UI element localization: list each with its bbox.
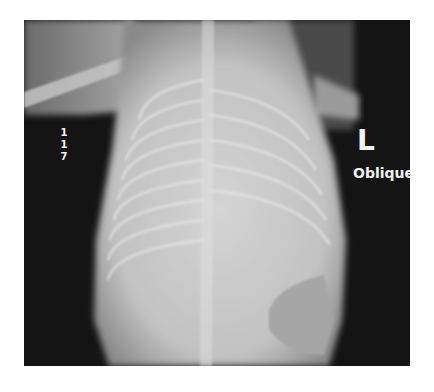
spine xyxy=(200,20,214,366)
xray-image: 1 1 7 L Oblique xyxy=(24,20,410,366)
view-label: Oblique xyxy=(353,165,410,181)
series-marker: 1 1 7 xyxy=(57,127,71,163)
radiograph-graphic xyxy=(24,20,410,366)
side-marker: L xyxy=(357,126,375,156)
image-number: 1 7 xyxy=(57,139,71,163)
series-number: 1 xyxy=(57,127,71,139)
